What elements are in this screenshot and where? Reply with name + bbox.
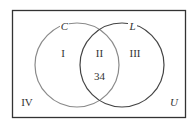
region-ii-label: II: [96, 47, 104, 59]
universe-label: U: [170, 96, 179, 108]
region-ii-value: 34: [94, 70, 106, 82]
region-iii-label: III: [130, 47, 141, 59]
set-c-label: C: [61, 20, 69, 32]
venn-diagram: C L I II 34 III IV U: [0, 0, 194, 122]
set-l-label: L: [128, 20, 135, 32]
region-iv-label: IV: [21, 96, 33, 108]
region-i-label: I: [61, 47, 65, 59]
